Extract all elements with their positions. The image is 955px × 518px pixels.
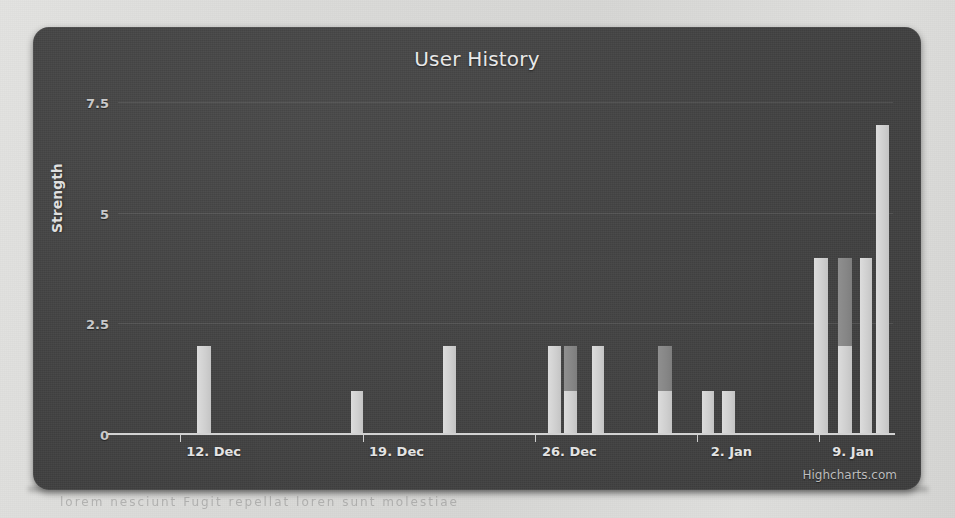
x-axis-tick [697, 435, 698, 442]
x-axis-tick-label: 19. Dec [369, 444, 424, 459]
bar-segment[interactable] [658, 346, 672, 390]
x-axis-tick [535, 435, 536, 442]
y-axis-tick-label: 5 [100, 206, 109, 221]
y-axis-tick-label: 2.5 [86, 317, 109, 332]
bar[interactable] [197, 346, 211, 435]
bar[interactable] [658, 346, 672, 435]
bar[interactable] [548, 346, 561, 435]
bar-segment[interactable] [658, 391, 672, 435]
bar[interactable] [838, 258, 852, 435]
bar-segment[interactable] [702, 391, 715, 435]
bar[interactable] [443, 346, 457, 435]
bar-segment[interactable] [838, 346, 852, 435]
bar-segment[interactable] [722, 391, 735, 435]
bar-segment[interactable] [814, 258, 828, 435]
bar[interactable] [876, 125, 889, 435]
scan-artifact-text: lorem nesciunt Fugit repellat loren sunt… [0, 495, 955, 518]
x-axis-tick-label: 12. Dec [186, 444, 241, 459]
bar[interactable] [592, 346, 605, 435]
x-axis-tick-label: 9. Jan [832, 444, 873, 459]
x-axis-tick [180, 435, 181, 442]
y-axis-tick-label: 7.5 [86, 95, 109, 110]
x-axis-tick-labels: 12. Dec19. Dec26. Dec2. Jan9. Jan [118, 435, 893, 475]
bar-segment[interactable] [548, 346, 561, 435]
gridline [118, 213, 893, 214]
bar[interactable] [814, 258, 828, 435]
x-axis-tick [363, 435, 364, 442]
bar-segment[interactable] [351, 391, 364, 435]
y-axis-title: Strength [49, 163, 65, 233]
gridline [118, 102, 893, 103]
bar-segment[interactable] [860, 258, 872, 435]
bar-segment[interactable] [876, 125, 889, 435]
highcharts-credit[interactable]: Highcharts.com [803, 468, 897, 482]
bar[interactable] [564, 346, 577, 435]
bar-segment[interactable] [564, 346, 577, 390]
y-axis-tick-label: 0 [100, 428, 109, 443]
bar-segment[interactable] [838, 258, 852, 347]
bar-segment[interactable] [197, 346, 211, 435]
bar-segment[interactable] [592, 346, 605, 435]
bar-segment[interactable] [443, 346, 457, 435]
bar[interactable] [722, 391, 735, 435]
bar-segment[interactable] [564, 391, 577, 435]
x-axis-tick-label: 2. Jan [711, 444, 752, 459]
x-axis-tick-label: 26. Dec [542, 444, 597, 459]
gridline [118, 323, 893, 324]
bar[interactable] [860, 258, 872, 435]
bar[interactable] [702, 391, 715, 435]
plot-area[interactable]: 02.557.5 [118, 63, 893, 435]
x-axis-tick [819, 435, 820, 442]
bar[interactable] [351, 391, 364, 435]
chart-panel[interactable]: User History Strength 02.557.5 12. Dec19… [33, 27, 921, 490]
